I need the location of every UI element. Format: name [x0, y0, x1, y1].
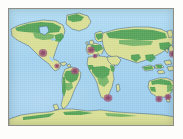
region-indonesia: [142, 60, 174, 74]
map-marker-core[interactable]: [157, 97, 161, 101]
region-caribbean: [60, 62, 71, 67]
region-antarctica: [9, 104, 174, 126]
figure-page: [0, 0, 183, 139]
world-map-figure: [8, 8, 174, 126]
map-marker-core[interactable]: [106, 96, 111, 100]
map-marker-core[interactable]: [94, 55, 97, 57]
map-marker-core[interactable]: [73, 69, 77, 73]
region-north-america: [11, 20, 65, 71]
map-marker-core[interactable]: [56, 65, 59, 68]
map-marker-core[interactable]: [166, 95, 170, 98]
map-marker-core[interactable]: [89, 48, 93, 52]
map-marker-core[interactable]: [41, 51, 46, 55]
world-map-svg: [9, 9, 174, 126]
region-asia: [102, 27, 174, 65]
region-greenland: [66, 13, 91, 31]
figure-caption-area: [0, 131, 183, 139]
